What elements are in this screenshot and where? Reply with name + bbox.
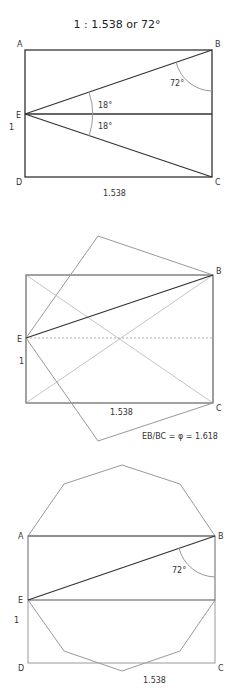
figure-2-pentagon: B C E 1 1.538 EB/BC = φ = 1.618 xyxy=(17,236,222,441)
label-base: 1.538 xyxy=(143,676,166,685)
figure-1-rectangle-triangle: A B C D E 1 1.538 72° 18° 18° xyxy=(9,40,221,198)
label-c: C xyxy=(216,404,222,413)
label-b: B xyxy=(218,532,224,541)
label-d: D xyxy=(16,178,22,187)
label-side-1: 1 xyxy=(19,357,24,366)
label-side-1: 1 xyxy=(9,123,14,132)
label-a: A xyxy=(18,532,24,541)
diagram-canvas: 1 : 1.538 or 72° A B C D E 1 1.538 72° 1… xyxy=(0,0,235,700)
label-side-1: 1 xyxy=(14,616,19,625)
line-ec xyxy=(25,114,212,177)
label-d: D xyxy=(18,664,24,673)
figure-3-decagon: A B C D E 1 1.538 72° xyxy=(14,465,224,685)
diagram-title: 1 : 1.538 or 72° xyxy=(74,18,161,31)
label-b: B xyxy=(215,40,221,49)
label-c: C xyxy=(218,664,224,673)
label-e: E xyxy=(16,111,21,120)
line-eb xyxy=(26,275,213,338)
label-base: 1.538 xyxy=(110,408,133,417)
label-base: 1.538 xyxy=(103,189,126,198)
label-e: E xyxy=(17,335,22,344)
label-angle-18-upper: 18° xyxy=(98,101,112,110)
label-c: C xyxy=(215,178,221,187)
label-e: E xyxy=(18,596,23,605)
label-ratio: EB/BC = φ = 1.618 xyxy=(142,432,218,441)
line-eb xyxy=(28,536,215,600)
label-b: B xyxy=(216,267,222,276)
label-angle-72: 72° xyxy=(170,79,184,88)
label-angle-18-lower: 18° xyxy=(98,122,112,131)
label-a: A xyxy=(17,40,23,49)
label-angle-72: 72° xyxy=(172,566,186,575)
